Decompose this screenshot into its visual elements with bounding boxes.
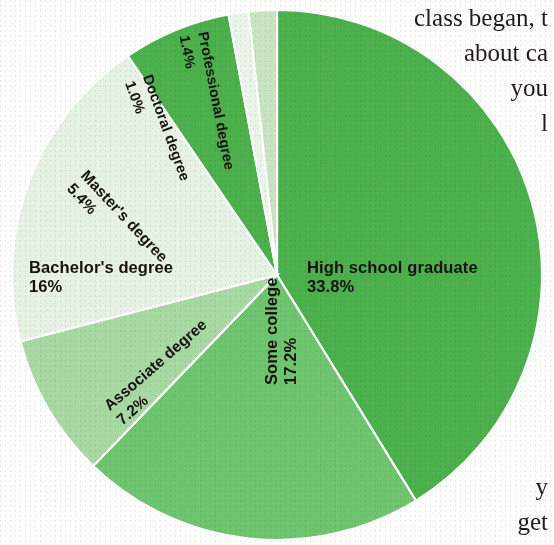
pie-chart-svg — [0, 0, 554, 545]
pie-slices — [12, 10, 542, 540]
pie-chart-figure: class began, t about ca you l High schoo… — [0, 0, 554, 545]
pie-chart — [0, 0, 554, 545]
